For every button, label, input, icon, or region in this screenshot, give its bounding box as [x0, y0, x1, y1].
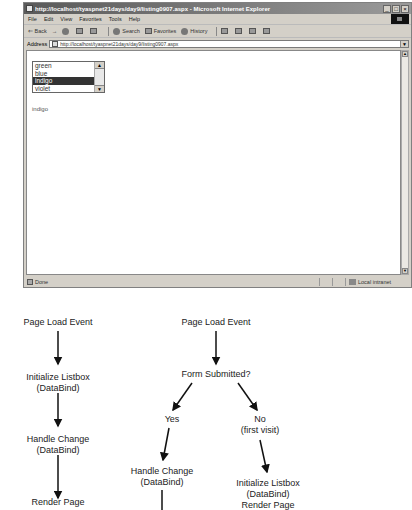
diagram-arrows [0, 300, 412, 510]
title-bar: http://localhost/tyaspnet21days/day9/lis… [24, 3, 411, 14]
node-sublabel: (first visit) [241, 425, 280, 436]
security-zone: Local intranet [345, 278, 411, 286]
right-initialize-listbox: Initialize Listbox (DataBind) Render Pag… [236, 478, 300, 510]
left-render-page: Render Page [31, 497, 84, 508]
page-icon [52, 41, 58, 47]
discuss-icon [263, 28, 270, 34]
right-handle-change: Handle Change (DataBind) [131, 466, 194, 488]
favorites-button[interactable]: Favorites [145, 28, 177, 34]
listbox-option[interactable]: blue [33, 70, 96, 78]
left-page-load-event: Page Load Event [23, 317, 92, 328]
scroll-down-icon[interactable]: ▼ [95, 85, 104, 92]
address-input[interactable]: http://localhost/tyaspnet21days/day9/lis… [49, 40, 409, 48]
listbox-option[interactable]: green [33, 62, 96, 70]
close-button[interactable]: × [401, 5, 409, 13]
selected-result-label: indigo [32, 106, 48, 112]
menu-bar: File Edit View Favorites Tools Help [24, 14, 411, 25]
search-label: Search [122, 28, 139, 34]
node-sublabel: (DataBind) [131, 477, 194, 488]
favorites-icon [145, 28, 152, 34]
favorites-label: Favorites [154, 28, 177, 34]
status-panel [319, 278, 332, 286]
stop-icon [62, 28, 69, 35]
intranet-icon [349, 279, 356, 285]
home-icon [90, 28, 97, 34]
node-label: Handle Change [131, 466, 194, 477]
window-title: http://localhost/tyaspnet21days/day9/lis… [35, 6, 382, 12]
flow-diagram: Page Load Event Initialize Listbox (Data… [0, 300, 412, 510]
history-label: History [190, 28, 207, 34]
minimize-button[interactable]: _ [383, 5, 391, 13]
node-sublabel: Render Page [236, 500, 300, 510]
history-button[interactable]: History [181, 28, 207, 35]
color-listbox[interactable]: green blue indigo violet ▲ ▼ [32, 61, 105, 93]
toolbar-separator [216, 27, 217, 36]
zone-label: Local intranet [358, 279, 391, 285]
menu-favorites[interactable]: Favorites [79, 16, 102, 22]
address-dropdown-button[interactable]: ▼ [400, 41, 408, 47]
print-button[interactable] [235, 28, 244, 34]
no-branch-label: No (first visit) [241, 414, 280, 436]
left-handle-change: Handle Change (DataBind) [27, 434, 90, 456]
scroll-down-icon[interactable]: ▼ [402, 268, 408, 274]
mail-icon [221, 28, 228, 34]
status-text: Done [35, 279, 319, 285]
node-sublabel: (DataBind) [27, 445, 90, 456]
listbox-scrollbar[interactable]: ▲ ▼ [94, 62, 104, 92]
arrow-no [238, 383, 257, 410]
node-sublabel: (DataBind) [236, 489, 300, 500]
scroll-up-icon[interactable]: ▲ [95, 62, 104, 69]
page-done-icon [27, 279, 33, 285]
menu-view[interactable]: View [60, 16, 72, 22]
left-initialize-listbox: Initialize Listbox (DataBind) [26, 372, 90, 394]
refresh-icon [76, 28, 83, 34]
edit-icon [249, 28, 256, 34]
menu-help[interactable]: Help [129, 16, 140, 22]
menu-tools[interactable]: Tools [109, 16, 122, 22]
home-button[interactable] [90, 28, 99, 34]
toolbar: ⇐ Back → Search Favorites History [24, 25, 411, 38]
node-label: Handle Change [27, 434, 90, 445]
yes-branch-label: Yes [165, 414, 180, 425]
arrow-yes [173, 383, 192, 410]
right-page-load-event: Page Load Event [181, 317, 250, 328]
menu-file[interactable]: File [28, 16, 37, 22]
page-content: green blue indigo violet ▲ ▼ indigo [26, 50, 401, 275]
ie-page-icon [26, 5, 33, 12]
node-label: Initialize Listbox [236, 478, 300, 489]
address-label: Address [27, 41, 47, 47]
status-panel [332, 278, 345, 286]
form-submitted-decision: Form Submitted? [181, 369, 250, 380]
address-bar: Address http://localhost/tyaspnet21days/… [24, 38, 411, 49]
print-icon [235, 28, 242, 34]
mail-button[interactable] [221, 28, 230, 34]
status-bar: Done Local intranet [24, 276, 411, 287]
forward-button[interactable]: → [52, 28, 58, 34]
toolbar-separator [108, 27, 109, 36]
node-label: No [241, 414, 280, 425]
scroll-up-icon[interactable]: ▲ [402, 51, 408, 57]
refresh-button[interactable] [76, 28, 85, 34]
edit-button[interactable] [249, 28, 258, 34]
maximize-button[interactable]: □ [392, 5, 400, 13]
discuss-button[interactable] [263, 28, 272, 34]
page-scrollbar[interactable]: ▲ ▼ [401, 50, 409, 275]
node-sublabel: (DataBind) [26, 383, 90, 394]
back-button[interactable]: ⇐ Back [28, 28, 47, 34]
stop-button[interactable] [62, 28, 71, 35]
listbox-option[interactable]: violet [33, 85, 96, 93]
browser-window: http://localhost/tyaspnet21days/day9/lis… [23, 2, 412, 288]
history-icon [181, 28, 188, 35]
menu-edit[interactable]: Edit [44, 16, 53, 22]
address-url[interactable]: http://localhost/tyaspnet21days/day9/lis… [60, 41, 400, 47]
arrow-yes-down [163, 428, 169, 460]
node-label: Initialize Listbox [26, 372, 90, 383]
arrow-no-down [260, 440, 267, 472]
windows-logo-icon [391, 14, 409, 24]
search-icon [113, 28, 120, 35]
search-button[interactable]: Search [113, 28, 139, 35]
listbox-option-selected[interactable]: indigo [33, 77, 96, 85]
